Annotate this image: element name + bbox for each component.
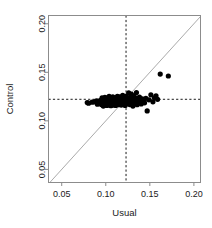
- scatter-plot-figure: 0.050.100.150.200.050.100.150.20UsualCon…: [0, 0, 212, 228]
- x-tick-label: 0.10: [97, 189, 115, 199]
- y-axis-title: Control: [4, 84, 15, 115]
- data-points-group: [85, 71, 171, 113]
- y-tick-label: 0.20: [37, 15, 47, 33]
- data-point: [166, 73, 171, 78]
- y-tick-label: 0.10: [37, 112, 47, 130]
- x-tick-label: 0.20: [185, 189, 203, 199]
- data-point: [134, 90, 139, 95]
- data-point: [155, 97, 160, 102]
- x-axis-title: Usual: [112, 207, 136, 218]
- chart-canvas: 0.050.100.150.200.050.100.150.20UsualCon…: [0, 0, 212, 228]
- y-tick-label: 0.05: [37, 161, 47, 179]
- x-tick-label: 0.05: [53, 189, 71, 199]
- data-point: [158, 71, 163, 76]
- data-point: [142, 100, 147, 105]
- x-tick-label: 0.15: [141, 189, 159, 199]
- data-point: [145, 108, 150, 113]
- y-tick-label: 0.15: [37, 64, 47, 82]
